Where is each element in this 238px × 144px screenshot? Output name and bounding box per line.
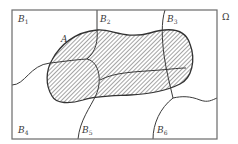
label-b3-index: 3 xyxy=(174,18,178,25)
event-a-region xyxy=(47,30,193,103)
label-b3: B3 xyxy=(167,15,177,25)
label-b5: B5 xyxy=(82,126,92,136)
label-b1-index: 1 xyxy=(25,18,29,25)
omega-symbol: Ω xyxy=(222,12,229,22)
label-b3-name: B xyxy=(167,14,174,24)
label-b2: B2 xyxy=(100,15,110,25)
boundary-b3-b6 xyxy=(173,97,217,102)
label-b4: B4 xyxy=(18,126,28,136)
label-b4-name: B xyxy=(18,125,25,135)
label-b6-name: B xyxy=(157,125,164,135)
label-b2-name: B xyxy=(100,14,107,24)
label-b4-index: 4 xyxy=(25,129,29,136)
partition-diagram xyxy=(0,0,238,144)
label-b1-name: B xyxy=(18,14,25,24)
label-b6-index: 6 xyxy=(164,129,168,136)
label-b1: B1 xyxy=(18,15,28,25)
label-b5-index: 5 xyxy=(89,129,93,136)
label-b6: B6 xyxy=(157,126,167,136)
label-omega: Ω xyxy=(222,13,229,22)
label-a-text: A xyxy=(61,34,68,44)
label-event-a: A xyxy=(61,35,68,44)
label-b2-index: 2 xyxy=(107,18,111,25)
label-b5-name: B xyxy=(82,125,89,135)
